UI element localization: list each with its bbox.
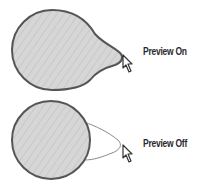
preview-off-label: Preview Off (143, 138, 187, 149)
preview-on-shape (12, 10, 122, 90)
cursor-arrow-icon (123, 55, 132, 72)
cursor-arrow-icon (123, 145, 132, 162)
diagram-canvas (0, 0, 197, 182)
preview-on-label: Preview On (143, 46, 187, 57)
preview-off-shape (12, 101, 120, 179)
